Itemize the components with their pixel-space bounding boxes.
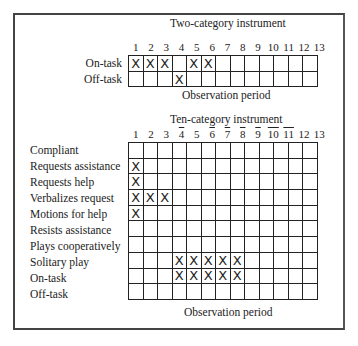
empty-cell	[230, 71, 245, 87]
ten-category-grid: XXXXXXXXXXXXXXXX	[128, 142, 318, 300]
empty-cell	[172, 284, 187, 300]
empty-cell	[303, 190, 318, 206]
empty-cell	[216, 205, 231, 221]
empty-cell	[274, 56, 289, 72]
empty-cell	[303, 158, 318, 174]
x-mark-cell: X	[187, 268, 202, 284]
empty-cell	[158, 158, 173, 174]
empty-cell	[129, 71, 144, 87]
period-number: 2	[143, 40, 158, 54]
empty-cell	[288, 268, 303, 284]
empty-cell	[216, 190, 231, 206]
empty-cell	[230, 158, 245, 174]
row-label: On-task	[70, 55, 122, 71]
period-number: 3	[159, 127, 174, 141]
empty-cell	[303, 205, 318, 221]
ten-category-title: Ten-category instrument	[170, 113, 283, 125]
empty-cell	[230, 205, 245, 221]
empty-cell	[245, 71, 260, 87]
x-mark-cell: X	[216, 252, 231, 268]
grid-row: XXXXX	[129, 56, 318, 72]
empty-cell	[201, 284, 216, 300]
empty-cell	[129, 268, 144, 284]
empty-cell	[230, 190, 245, 206]
empty-cell	[201, 71, 216, 87]
period-number: 8	[235, 40, 250, 54]
period-number: 7	[220, 40, 235, 54]
empty-cell	[230, 143, 245, 159]
empty-cell	[288, 237, 303, 253]
empty-cell	[143, 205, 158, 221]
empty-cell	[303, 174, 318, 190]
empty-cell	[288, 174, 303, 190]
period-number: 7	[220, 127, 235, 141]
empty-cell	[201, 237, 216, 253]
ten-category-period-numbers: 12345678910111213	[128, 127, 327, 141]
row-label: Motions for help	[30, 206, 120, 222]
empty-cell	[216, 71, 231, 87]
empty-cell	[201, 143, 216, 159]
ten-category-row-labels: CompliantRequests assistanceRequests hel…	[30, 142, 120, 302]
empty-cell	[187, 205, 202, 221]
empty-cell	[303, 221, 318, 237]
empty-cell	[201, 174, 216, 190]
grid-row	[129, 284, 318, 300]
grid-row: X	[129, 174, 318, 190]
empty-cell	[187, 237, 202, 253]
empty-cell	[245, 56, 260, 72]
period-number: 1	[128, 40, 143, 54]
empty-cell	[143, 143, 158, 159]
empty-cell	[187, 190, 202, 206]
empty-cell	[303, 252, 318, 268]
empty-cell	[216, 174, 231, 190]
empty-cell	[288, 252, 303, 268]
x-mark-cell: X	[187, 252, 202, 268]
empty-cell	[288, 143, 303, 159]
empty-cell	[230, 284, 245, 300]
empty-cell	[245, 190, 260, 206]
empty-cell	[245, 252, 260, 268]
period-number: 4	[174, 40, 189, 54]
empty-cell	[274, 252, 289, 268]
empty-cell	[129, 284, 144, 300]
period-number: 12	[296, 40, 311, 54]
period-number: 9	[250, 127, 265, 141]
empty-cell	[172, 190, 187, 206]
grid-row: X	[129, 158, 318, 174]
empty-cell	[143, 268, 158, 284]
empty-cell	[303, 143, 318, 159]
empty-cell	[187, 158, 202, 174]
row-label: Compliant	[30, 142, 120, 158]
empty-cell	[303, 56, 318, 72]
empty-cell	[288, 205, 303, 221]
empty-cell	[274, 190, 289, 206]
x-mark-cell: X	[129, 56, 144, 72]
empty-cell	[187, 221, 202, 237]
empty-cell	[230, 221, 245, 237]
empty-cell	[274, 71, 289, 87]
empty-cell	[259, 71, 274, 87]
x-mark-cell: X	[172, 252, 187, 268]
empty-cell	[187, 174, 202, 190]
empty-cell	[245, 174, 260, 190]
empty-cell	[288, 221, 303, 237]
empty-cell	[158, 237, 173, 253]
empty-cell	[259, 56, 274, 72]
grid-row: XXX	[129, 190, 318, 206]
x-mark-cell: X	[158, 56, 173, 72]
empty-cell	[274, 158, 289, 174]
x-mark-cell: X	[201, 56, 216, 72]
empty-cell	[288, 71, 303, 87]
empty-cell	[201, 221, 216, 237]
empty-cell	[245, 284, 260, 300]
two-category-row-labels: On-taskOff-task	[70, 55, 122, 87]
row-label: Requests assistance	[30, 158, 120, 174]
empty-cell	[172, 143, 187, 159]
empty-cell	[274, 174, 289, 190]
empty-cell	[274, 284, 289, 300]
row-label: Resists assistance	[30, 222, 120, 238]
empty-cell	[216, 158, 231, 174]
empty-cell	[259, 252, 274, 268]
empty-cell	[259, 284, 274, 300]
grid-row: X	[129, 71, 318, 87]
